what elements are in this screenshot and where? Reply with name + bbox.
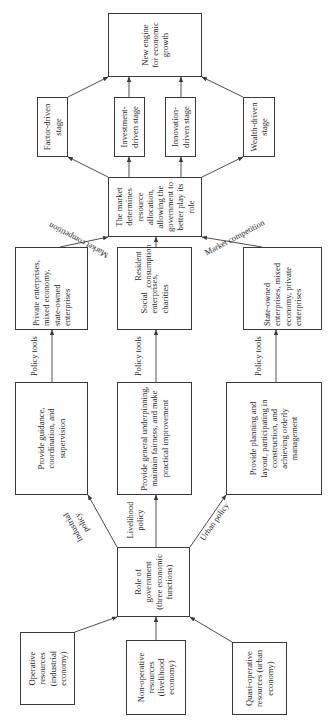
- underpinning-function-text: Provide general underpinning, maintain f…: [139, 386, 170, 491]
- non-operative-resources-box: Non-operative resources (livelihood econ…: [126, 640, 186, 715]
- resident-consumption-label: Resident consumption: [134, 236, 153, 296]
- investment-driven-stage-box: Investment-driven stage: [114, 97, 145, 157]
- wealth-driven-stage-box: Wealth-driven stage: [243, 97, 275, 157]
- planning-function-box: Provide planning and layout, participati…: [226, 382, 322, 495]
- market-allocation-box: The market determines resource allocatio…: [108, 177, 202, 237]
- livelihood-policy-label: Livelihood policy: [126, 498, 145, 542]
- policy-tools-label-2: Policy tools: [134, 334, 144, 378]
- underpinning-function-box: Provide general underpinning, maintain f…: [117, 382, 192, 495]
- quasi-operative-resources-box: Quasi-operative resources (urban economy…: [232, 642, 287, 715]
- policy-tools-label-3: Policy tools: [254, 334, 264, 378]
- role-of-government-text: Role of government (three economic funct…: [133, 551, 174, 613]
- state-owned-enterprises-box: State-owned enterprises, mixed economy, …: [243, 247, 322, 330]
- guidance-function-box: Provide guidance, coordination, and supe…: [15, 382, 88, 495]
- state-owned-enterprises-text: State-owned enterprises, mixed economy, …: [262, 251, 303, 326]
- factor-driven-stage-text: Factor-driven stage: [42, 101, 62, 153]
- private-enterprises-box: Private enterprises, mixed economy, stat…: [15, 247, 88, 330]
- planning-function-text: Provide planning and layout, participati…: [248, 394, 299, 484]
- new-engine-growth-box: New engine for economic growth: [108, 13, 202, 77]
- factor-driven-stage-box: Factor-driven stage: [37, 97, 68, 157]
- non-operative-resources-text: Non-operative resources (livelihood econ…: [136, 644, 177, 711]
- policy-tools-label-1: Policy tools: [30, 334, 40, 378]
- guidance-function-text: Provide guidance, coordination, and supe…: [36, 404, 67, 474]
- innovation-driven-stage-box: Innovation-driven stage: [165, 97, 196, 157]
- wealth-driven-stage-text: Wealth-driven stage: [249, 101, 269, 153]
- innovation-driven-stage-text: Innovation-driven stage: [170, 101, 190, 153]
- operative-resources-box: Operative resources (industrial economy): [20, 632, 75, 705]
- new-engine-growth-text: New engine for economic growth: [140, 20, 171, 70]
- investment-driven-stage-text: Investment-driven stage: [119, 101, 139, 153]
- role-of-government-box: Role of government (three economic funct…: [117, 547, 190, 617]
- economic-framework-diagram: Operative resources (industrial economy)…: [0, 0, 328, 728]
- market-allocation-text: The market determines resource allocatio…: [114, 181, 196, 233]
- operative-resources-text: Operative resources (industrial economy): [27, 636, 68, 701]
- private-enterprises-text: Private enterprises, mixed economy, stat…: [31, 251, 72, 326]
- social-enterprises-box: Social enterprises, charities: [117, 247, 192, 330]
- quasi-operative-resources-text: Quasi-operative resources (urban economy…: [244, 646, 275, 711]
